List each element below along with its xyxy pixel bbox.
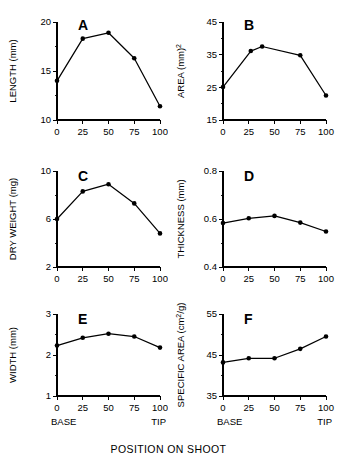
xtick-label: 100 (318, 402, 334, 413)
data-point (106, 182, 111, 187)
panel-b-plot: 152535450255075100BAREA (mm)2 (168, 0, 337, 155)
panel-b-data-line (223, 47, 326, 96)
xtick-label: 0 (54, 402, 59, 413)
xtick-label: 25 (77, 402, 88, 413)
ytick-label: 2 (46, 349, 51, 360)
ytick-label: 2 (46, 261, 51, 272)
ytick-label: 15 (40, 65, 51, 76)
xtick-label: 0 (54, 126, 59, 137)
data-point (221, 221, 226, 226)
panel-a-data-line (57, 33, 160, 107)
base-label: BASE (217, 416, 242, 425)
data-point (260, 44, 265, 49)
data-point (132, 201, 137, 206)
data-point (221, 85, 226, 90)
ytick-label: 0.8 (204, 165, 217, 176)
ytick-label: 20 (40, 16, 51, 27)
data-point (106, 331, 111, 336)
xtick-label: 50 (103, 126, 114, 137)
xtick-label: 25 (77, 273, 88, 284)
panel-d-axes (223, 171, 326, 267)
data-point (158, 104, 163, 109)
data-point (249, 49, 254, 54)
panel-a-length: 1015200255075100ALENGTH (mm) (0, 0, 168, 155)
ytick-label: 3 (46, 308, 51, 319)
panel-d-thickness: 0.40.60.80255075100DTHICKNESS (mm) (168, 155, 337, 300)
ytick-label: 10 (40, 114, 51, 125)
data-point (246, 216, 251, 221)
xtick-label: 75 (295, 126, 306, 137)
ytick-label: 1 (46, 390, 51, 401)
panel-c-plot: 26100255075100CDRY WEIGHT (mg) (0, 155, 168, 300)
panel-b-ylabel: AREA (mm)2 (175, 44, 187, 98)
xtick-label: 50 (269, 273, 280, 284)
panel-f-specific-area: 3545550255075100FSPECIFIC AREA (cm2/g)BA… (168, 300, 337, 425)
xtick-label: 100 (152, 402, 168, 413)
panel-e-axes (57, 314, 160, 396)
figure-xaxis-caption: POSITION ON SHOOT (0, 443, 337, 455)
xtick-label: 50 (269, 402, 280, 413)
panel-letter-e: E (78, 311, 87, 327)
xtick-label: 100 (318, 126, 334, 137)
panel-letter-d: D (244, 168, 254, 184)
xtick-label: 0 (54, 273, 59, 284)
ytick-label: 10 (40, 165, 51, 176)
data-point (80, 189, 85, 194)
ytick-label: 35 (206, 390, 217, 401)
panel-b-area: 152535450255075100BAREA (mm)2 (168, 0, 337, 155)
data-point (298, 220, 303, 225)
ytick-label: 45 (206, 349, 217, 360)
xtick-label: 100 (318, 273, 334, 284)
panel-e-ylabel: WIDTH (mm) (7, 327, 18, 383)
xtick-label: 0 (220, 273, 225, 284)
data-point (246, 356, 251, 361)
panel-c-data-line (57, 184, 160, 233)
ytick-label: 25 (206, 82, 217, 93)
panel-a-plot: 1015200255075100ALENGTH (mm) (0, 0, 168, 155)
panel-grid: 1015200255075100ALENGTH (mm) 15253545025… (0, 0, 337, 425)
panel-letter-b: B (244, 17, 254, 33)
xtick-label: 50 (269, 126, 280, 137)
ytick-label: 0.4 (204, 261, 217, 272)
ytick-label: 15 (206, 114, 217, 125)
panel-d-data-line (223, 216, 326, 232)
data-point (106, 30, 111, 35)
panel-letter-f: F (244, 311, 253, 327)
data-point (80, 335, 85, 340)
data-point (272, 214, 277, 219)
xtick-label: 75 (129, 126, 140, 137)
data-point (298, 53, 303, 58)
ytick-label: 55 (206, 308, 217, 319)
xtick-label: 0 (220, 126, 225, 137)
panel-letter-a: A (78, 17, 88, 33)
ytick-label: 35 (206, 49, 217, 60)
xtick-label: 25 (77, 126, 88, 137)
panel-letter-c: C (78, 168, 88, 184)
panel-c-dry-weight: 26100255075100CDRY WEIGHT (mg) (0, 155, 168, 300)
panel-d-plot: 0.40.60.80255075100DTHICKNESS (mm) (168, 155, 337, 300)
tip-label: TIP (151, 416, 166, 425)
xtick-label: 100 (152, 126, 168, 137)
ytick-label: 45 (206, 16, 217, 27)
xtick-label: 75 (129, 273, 140, 284)
panel-a-ylabel: LENGTH (mm) (7, 39, 18, 102)
panel-f-ylabel: SPECIFIC AREA (cm2/g) (175, 303, 187, 408)
data-point (158, 231, 163, 236)
data-point (221, 360, 226, 365)
xtick-label: 25 (243, 402, 254, 413)
xtick-label: 50 (103, 273, 114, 284)
panel-e-plot: 1230255075100EWIDTH (mm)BASETIP (0, 300, 168, 425)
base-label: BASE (51, 416, 76, 425)
data-point (55, 343, 60, 348)
xtick-label: 25 (243, 273, 254, 284)
data-point (132, 56, 137, 61)
xtick-label: 50 (103, 402, 114, 413)
data-point (132, 334, 137, 339)
ytick-label: 6 (46, 213, 51, 224)
panel-a-axes (57, 22, 160, 120)
data-point (80, 36, 85, 41)
panel-f-plot: 3545550255075100FSPECIFIC AREA (cm2/g)BA… (168, 300, 337, 425)
tip-label: TIP (317, 416, 332, 425)
xtick-label: 100 (152, 273, 168, 284)
data-point (298, 347, 303, 352)
